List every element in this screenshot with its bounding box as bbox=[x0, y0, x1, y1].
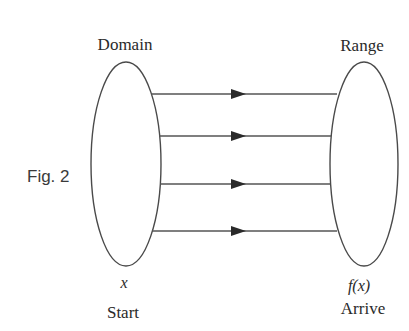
domain-title: Domain bbox=[98, 35, 153, 54]
domain-set-ellipse bbox=[91, 62, 161, 266]
mapping-arrow-3 bbox=[160, 179, 330, 189]
arrowhead-icon bbox=[231, 226, 246, 236]
mapping-arrow-2 bbox=[159, 131, 331, 141]
arrowhead-icon bbox=[231, 89, 246, 99]
mapping-arrow-4 bbox=[152, 226, 337, 236]
figure-label: Fig. 2 bbox=[27, 167, 70, 186]
range-title: Range bbox=[340, 36, 383, 55]
mapping-arrow-1 bbox=[151, 89, 337, 99]
domain-caption: Start bbox=[107, 303, 139, 322]
range-variable: f(x) bbox=[348, 277, 370, 295]
domain-variable: x bbox=[119, 274, 127, 291]
range-set-ellipse bbox=[330, 62, 398, 266]
arrowhead-icon bbox=[231, 131, 246, 141]
function-mapping-diagram: Domain Range Fig. 2 x f(x) Start Arrive bbox=[0, 0, 409, 331]
arrowhead-icon bbox=[231, 179, 246, 189]
range-caption: Arrive bbox=[341, 299, 385, 318]
